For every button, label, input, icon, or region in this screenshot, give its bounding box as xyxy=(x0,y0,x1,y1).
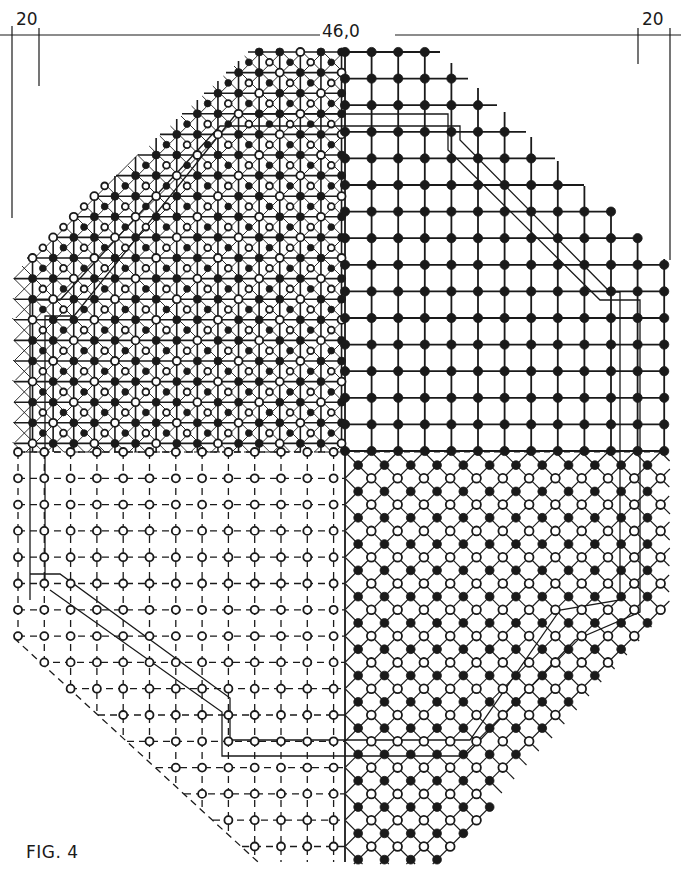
figure-drawing xyxy=(0,0,681,873)
dimension-overall-width: 46,0 xyxy=(320,22,362,40)
dimension-right-margin: 20 xyxy=(640,10,666,28)
figure-caption: FIG. 4 xyxy=(26,842,79,862)
dimension-left-margin: 20 xyxy=(14,10,40,28)
